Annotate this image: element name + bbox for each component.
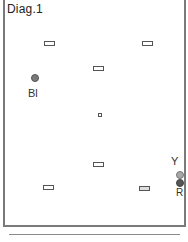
diagram-frame — [3, 0, 186, 227]
marker-top-left — [44, 41, 55, 46]
marker-upper-center — [93, 66, 104, 71]
point-y-label: Y — [171, 155, 178, 167]
marker-top-right — [142, 41, 153, 46]
diagram-title: Diag.1 — [7, 2, 43, 16]
point-y-dot — [176, 171, 184, 179]
point-r-label: R — [176, 187, 183, 198]
bottom-separator — [9, 234, 180, 235]
marker-bottom-left — [43, 185, 54, 190]
marker-bottom-right — [139, 186, 150, 191]
marker-center — [98, 113, 102, 117]
point-bl-label: Bl — [28, 87, 38, 99]
marker-lower-center — [93, 162, 104, 167]
point-bl-dot — [31, 74, 39, 82]
point-r-dot — [176, 179, 184, 187]
